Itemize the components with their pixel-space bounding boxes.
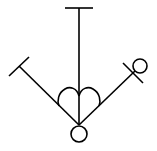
symbol-diagram	[0, 0, 157, 151]
right-circle	[133, 59, 147, 73]
right-diagonal-line	[79, 71, 135, 125]
left-diagonal-line	[19, 66, 79, 125]
bottom-circle	[71, 126, 87, 142]
